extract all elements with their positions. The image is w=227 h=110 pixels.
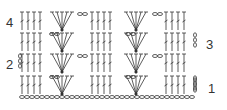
crochet-chart <box>0 0 227 110</box>
